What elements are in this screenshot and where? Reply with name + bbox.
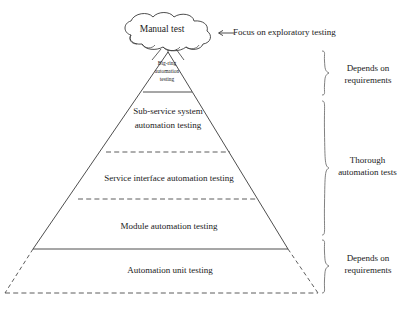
brace-group: [322, 51, 329, 293]
cloud-icon: [125, 13, 210, 51]
left-arrow-icon: [219, 30, 235, 35]
pyramid-outline: [33, 52, 288, 249]
automation-unit-band: [5, 249, 318, 293]
testing-pyramid-diagram: Manual test Big-ring automation testing …: [0, 0, 404, 313]
brace-middle: [322, 101, 329, 235]
brace-bottom: [322, 240, 329, 293]
pyramid-graphics: [0, 0, 404, 313]
brace-top: [322, 51, 329, 95]
